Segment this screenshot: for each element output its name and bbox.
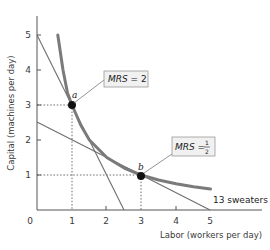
y-tick-4: 4 bbox=[25, 65, 31, 75]
point-a-label: a bbox=[72, 90, 77, 100]
x-tick-3: 3 bbox=[138, 216, 144, 226]
y-axis-label: Capital (machines per day) bbox=[6, 55, 16, 170]
x-tick-5: 5 bbox=[207, 216, 213, 226]
y-tick-5: 5 bbox=[25, 30, 31, 40]
callout-line-a bbox=[74, 80, 104, 103]
x-tick-4: 4 bbox=[173, 216, 179, 226]
x-ticks: 0 1 2 3 4 5 bbox=[27, 206, 213, 226]
isoquant-chart: 5 4 3 2 1 0 1 2 3 4 5 Capital (machines … bbox=[0, 0, 270, 250]
point-b bbox=[137, 172, 145, 180]
x-tick-1: 1 bbox=[69, 216, 75, 226]
point-b-label: b bbox=[138, 162, 144, 172]
mrs-b-denominator: 2 bbox=[205, 148, 209, 155]
x-axis-label: Labor (workers per day) bbox=[160, 230, 262, 240]
curve-label: 13 sweaters bbox=[213, 195, 268, 205]
y-ticks: 5 4 3 2 1 bbox=[25, 30, 41, 180]
y-tick-2: 2 bbox=[25, 135, 31, 145]
callout-line-b bbox=[144, 154, 172, 173]
y-tick-3: 3 bbox=[25, 100, 31, 110]
y-tick-1: 1 bbox=[25, 170, 31, 180]
isoquant-curve bbox=[58, 35, 211, 189]
mrs-a-text: MRS = 2 bbox=[108, 74, 147, 84]
guide-lines bbox=[37, 105, 141, 210]
x-tick-2: 2 bbox=[103, 216, 109, 226]
x-tick-0: 0 bbox=[27, 216, 33, 226]
mrs-b-text: MRS = bbox=[175, 142, 205, 152]
mrs-b-numerator: 1 bbox=[205, 139, 209, 146]
